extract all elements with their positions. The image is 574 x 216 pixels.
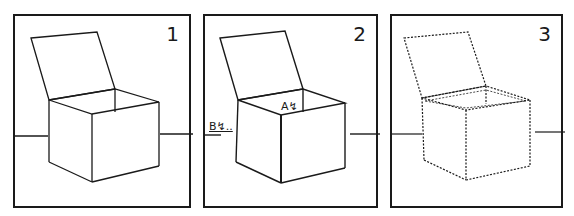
open-box-drawing [205,16,380,210]
panel-1: 1 [13,14,191,208]
open-box-drawing-dotted [392,16,565,210]
label-b: B↯.. [209,120,233,133]
panel-3: 3 [390,14,563,208]
panel-2: 2 A↯ B↯.. [203,14,378,208]
open-box-drawing [15,16,193,210]
label-a: A↯ [281,100,298,113]
